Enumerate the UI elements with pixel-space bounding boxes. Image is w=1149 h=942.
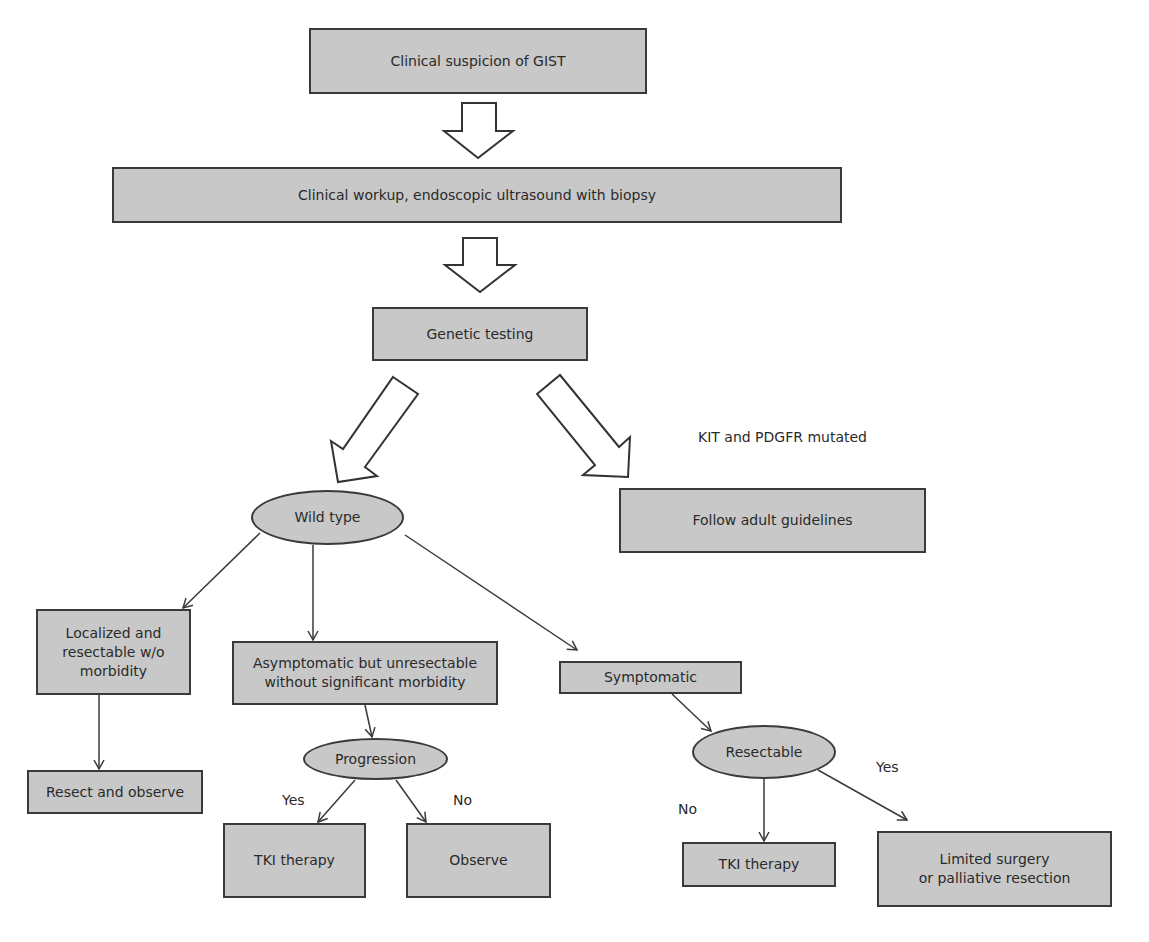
node-text: Clinical workup, endoscopic ultrasound w… xyxy=(298,186,656,205)
block-arrow-wildtype xyxy=(331,377,418,482)
label-resectable-no: No xyxy=(678,801,697,817)
label-kit-pdgfr-mutated: KIT and PDGFR mutated xyxy=(698,429,867,445)
node-text: Progression xyxy=(335,750,416,769)
node-wild-type: Wild type xyxy=(251,490,404,545)
label-progression-no: No xyxy=(453,792,472,808)
node-text: Resect and observe xyxy=(46,783,184,802)
node-follow-adult-guidelines: Follow adult guidelines xyxy=(619,488,926,553)
edge-wild-symptomatic xyxy=(405,535,577,650)
label-progression-yes: Yes xyxy=(282,792,305,808)
node-observe: Observe xyxy=(406,823,551,898)
label-resectable-yes: Yes xyxy=(876,759,899,775)
node-text: Resectable xyxy=(726,743,803,762)
node-text: Wild type xyxy=(295,508,361,527)
node-tki-therapy-1: TKI therapy xyxy=(223,823,366,898)
node-progression: Progression xyxy=(303,738,448,780)
node-genetic-testing: Genetic testing xyxy=(372,307,588,361)
node-text: Localized and resectable w/o morbidity xyxy=(62,624,164,681)
block-arrow-down-2 xyxy=(445,238,515,292)
node-asymptomatic-unresectable: Asymptomatic but unresectable without si… xyxy=(232,641,498,705)
node-text: Symptomatic xyxy=(604,668,697,687)
node-symptomatic: Symptomatic xyxy=(559,661,742,694)
node-text: Limited surgery or palliative resection xyxy=(919,850,1071,888)
node-text: Observe xyxy=(449,851,507,870)
node-clinical-suspicion: Clinical suspicion of GIST xyxy=(309,28,647,94)
node-resectable: Resectable xyxy=(692,725,836,779)
edge-asym-progression xyxy=(365,705,372,737)
node-clinical-workup: Clinical workup, endoscopic ultrasound w… xyxy=(112,167,842,223)
node-text: Asymptomatic but unresectable without si… xyxy=(253,654,477,692)
node-localized-resectable: Localized and resectable w/o morbidity xyxy=(36,609,191,695)
edge-symptomatic-resectable xyxy=(672,694,711,731)
node-text: TKI therapy xyxy=(254,851,335,870)
edge-progression-tki xyxy=(318,780,355,822)
node-text: Genetic testing xyxy=(426,325,533,344)
edge-wild-localized xyxy=(183,533,260,608)
node-text: Clinical suspicion of GIST xyxy=(390,52,565,71)
node-text: Follow adult guidelines xyxy=(692,511,852,530)
node-limited-surgery: Limited surgery or palliative resection xyxy=(877,831,1112,907)
edge-resectable-limited xyxy=(818,770,907,820)
node-text: TKI therapy xyxy=(719,855,800,874)
block-arrow-mutated xyxy=(537,375,630,477)
edge-progression-observe xyxy=(396,780,426,822)
block-arrow-down-1 xyxy=(444,103,513,158)
node-resect-and-observe: Resect and observe xyxy=(27,770,203,814)
node-tki-therapy-2: TKI therapy xyxy=(682,842,836,887)
